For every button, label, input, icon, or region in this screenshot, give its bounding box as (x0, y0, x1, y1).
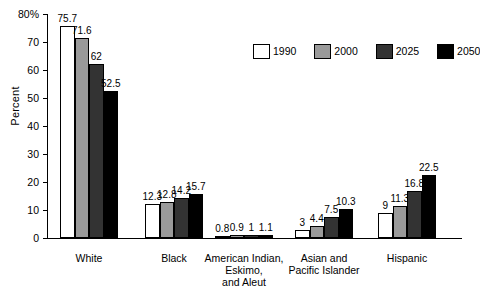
bar (324, 217, 339, 238)
y-tick-label: 0 (5, 233, 39, 243)
bar (295, 230, 310, 238)
y-tick-label: 80% (5, 9, 39, 19)
legend-swatch (376, 44, 393, 59)
y-tick-label: 20 (5, 177, 39, 187)
x-axis-category-label: Hispanic (352, 252, 462, 264)
bar-value-label: 71.6 (67, 26, 97, 36)
bar-value-label: 75.7 (52, 14, 82, 24)
bar-value-label: 1.1 (251, 223, 281, 233)
y-tick-label: 10 (5, 205, 39, 215)
bar (189, 194, 204, 238)
bar (407, 191, 422, 238)
y-tick-label: 30 (5, 149, 39, 159)
bar (89, 64, 104, 238)
bar (422, 175, 437, 238)
bar (230, 235, 245, 238)
legend-swatch (253, 44, 270, 59)
bar (310, 226, 325, 238)
bar-value-label: 52.5 (96, 79, 126, 89)
bar (215, 236, 230, 238)
legend-swatch (314, 44, 331, 59)
bar (104, 91, 119, 238)
y-tick-label: 40 (5, 121, 39, 131)
y-tick-label: 50 (5, 93, 39, 103)
legend-item: 2025 (376, 44, 437, 59)
legend-label: 2000 (334, 46, 357, 57)
bar (393, 206, 408, 238)
bar-value-label: 22.5 (414, 163, 444, 173)
bar (145, 204, 160, 238)
legend-label: 2025 (396, 46, 419, 57)
bar (174, 198, 189, 238)
bar (378, 213, 393, 238)
legend: 1990200020252050 (253, 44, 480, 59)
bar-value-label: 10.3 (331, 197, 361, 207)
legend-swatch (437, 44, 454, 59)
legend-item: 2050 (437, 44, 480, 59)
bar (75, 38, 90, 238)
x-axis-line (47, 238, 462, 239)
legend-label: 2050 (457, 46, 480, 57)
bar (160, 202, 175, 238)
y-tick-label: 70 (5, 37, 39, 47)
bar (259, 235, 274, 238)
y-axis-line (47, 14, 48, 238)
bar (60, 26, 75, 238)
bar-value-label: 62 (81, 52, 111, 62)
legend-item: 1990 (253, 44, 314, 59)
y-tick-label: 60 (5, 65, 39, 75)
bar (339, 209, 354, 238)
legend-item: 2000 (314, 44, 375, 59)
bar-value-label: 15.7 (181, 182, 211, 192)
legend-label: 1990 (273, 46, 296, 57)
bar (244, 235, 259, 238)
